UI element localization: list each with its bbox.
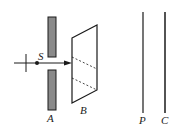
prism-outline — [72, 25, 97, 103]
label-source: S — [38, 50, 44, 62]
arrow-head-icon — [64, 61, 72, 66]
prism-b — [72, 25, 97, 103]
label-b: B — [80, 104, 87, 116]
optics-diagram: S A B P C — [0, 0, 179, 135]
slit-plate-bottom — [48, 70, 56, 110]
label-a: A — [46, 112, 54, 124]
prism-dashed-line-1 — [72, 57, 97, 69]
slit-plate-top — [48, 17, 56, 57]
label-p: P — [138, 114, 146, 126]
label-c: C — [161, 114, 169, 126]
prism-dashed-line-2 — [72, 78, 97, 90]
